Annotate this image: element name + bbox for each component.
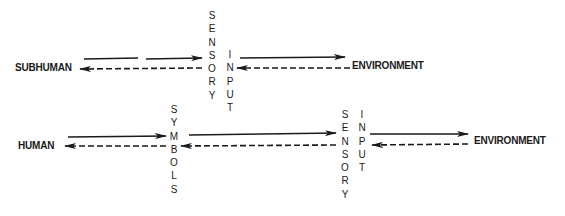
bottom-right-dashed-arrow — [372, 144, 468, 145]
bottom-middle-dashed-arrow — [181, 145, 336, 146]
bottom-middle-solid-arrow — [189, 133, 336, 135]
top-left-dashed-arrow — [80, 68, 202, 69]
arrows-layer — [0, 0, 565, 216]
top-right-solid-arrow — [240, 57, 345, 58]
bottom-left-solid-arrow — [68, 136, 166, 137]
top-left-solid-arrow — [84, 58, 202, 59]
